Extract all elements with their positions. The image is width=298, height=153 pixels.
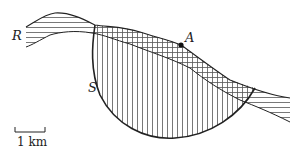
scale-bar-label: 1 km <box>17 135 48 149</box>
scale-bar <box>15 127 45 132</box>
cross-section-diagram: A R S 1 km <box>0 0 298 153</box>
layer-r-label: R <box>11 28 22 43</box>
slip-surface-label: S <box>88 80 97 95</box>
point-a-marker <box>178 42 183 47</box>
point-a-label: A <box>184 30 194 45</box>
